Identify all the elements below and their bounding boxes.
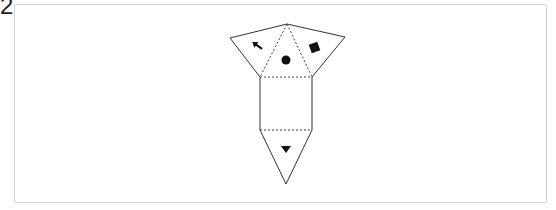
- net-diagram: [0, 0, 556, 210]
- fold-line: [260, 24, 287, 77]
- circle-icon: [282, 56, 291, 65]
- arrow-icon: [250, 39, 264, 52]
- triangle-down-icon: [281, 146, 291, 153]
- top-outline: [230, 24, 345, 77]
- fold-line: [287, 24, 312, 77]
- square-icon: [309, 42, 321, 54]
- bottom-triangle-outline: [260, 130, 312, 184]
